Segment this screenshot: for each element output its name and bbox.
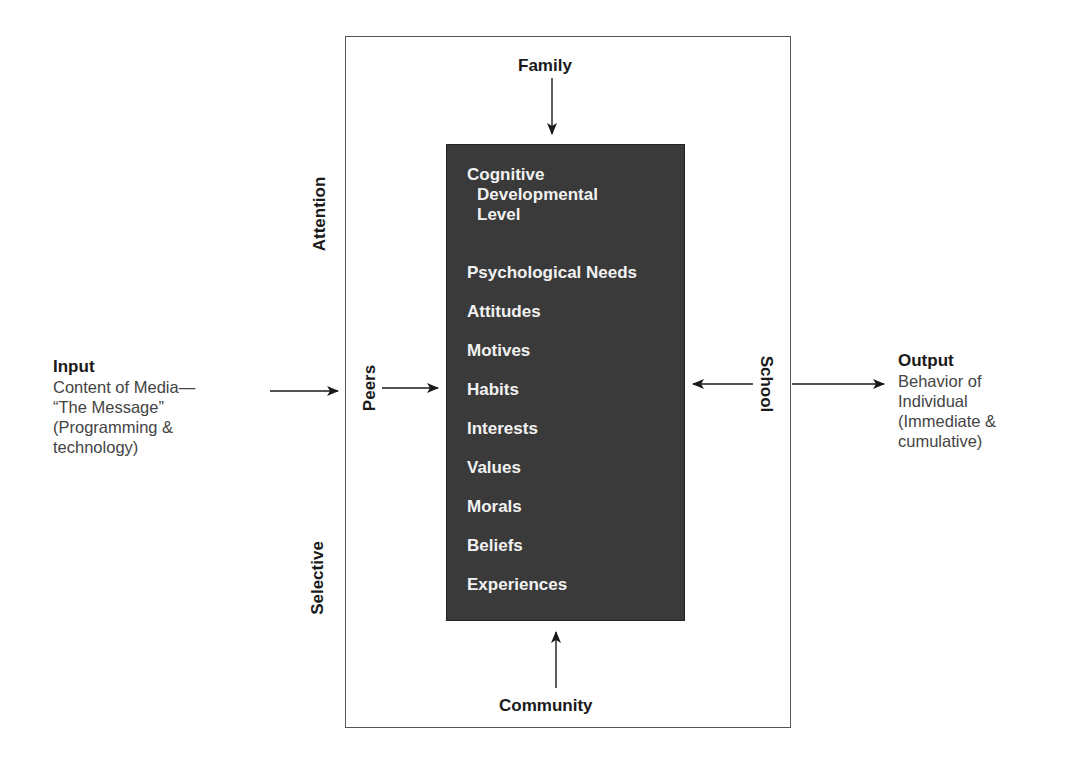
factor-line: Level [467,205,598,225]
output-line: Behavior of [898,371,996,391]
output-block: Output Behavior of Individual (Immediate… [898,351,996,451]
input-block: Input Content of Media— “The Message” (P… [53,357,195,457]
factor-item: Beliefs [467,536,523,556]
factor-item: Habits [467,380,519,400]
output-heading: Output [898,351,996,371]
factor-line: Cognitive [467,165,598,185]
input-line: technology) [53,437,195,457]
peers-label: Peers [360,365,380,411]
factor-item: Interests [467,419,538,439]
input-line: (Programming & [53,417,195,437]
factor-item: Attitudes [467,302,541,322]
family-label: Family [518,56,572,76]
input-line: Content of Media— [53,377,195,397]
community-label: Community [499,696,593,716]
attention-label: Attention [310,177,330,252]
school-label: School [756,356,776,413]
output-line: (Immediate & [898,411,996,431]
factor-cognitive-developmental-level: Cognitive Developmental Level [467,165,598,225]
factor-item: Experiences [467,575,567,595]
factor-item: Psychological Needs [467,263,637,283]
factor-item: Values [467,458,521,478]
factor-item: Motives [467,341,530,361]
individual-factors-box: Cognitive Developmental Level Psychologi… [446,144,685,621]
output-line: cumulative) [898,431,996,451]
input-heading: Input [53,357,195,377]
factor-item: Morals [467,497,522,517]
selective-label: Selective [308,541,328,615]
output-line: Individual [898,391,996,411]
input-line: “The Message” [53,397,195,417]
factor-line: Developmental [467,185,598,205]
